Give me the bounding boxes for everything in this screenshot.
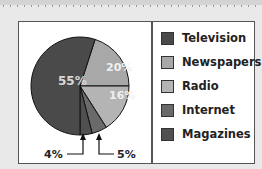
label-newspapers: 20% [106,61,132,74]
chart-frame: 55% 20% 16% 4% 5% Television Newspapers … [18,21,255,164]
arrow-internet-icon [96,133,102,140]
swatch-icon [161,32,174,45]
frame-divider [151,22,153,163]
pie-chart: 55% 20% 16% 4% 5% [19,22,152,163]
swatch-icon [161,104,174,117]
dotted-rule [0,5,262,7]
swatch-icon [161,56,174,69]
swatch-icon [161,128,174,141]
legend-item-television: Television [161,30,246,46]
callout-magazines: 4% [44,148,63,161]
legend-item-radio: Radio [161,78,219,94]
callout-internet: 5% [117,148,136,161]
legend-item-magazines: Magazines [161,126,251,142]
legend-item-internet: Internet [161,102,235,118]
callout-arrows [67,138,114,154]
legend-item-newspapers: Newspapers [161,54,261,70]
label-television: 55% [58,74,87,88]
label-radio: 16% [109,89,135,102]
swatch-icon [161,80,174,93]
